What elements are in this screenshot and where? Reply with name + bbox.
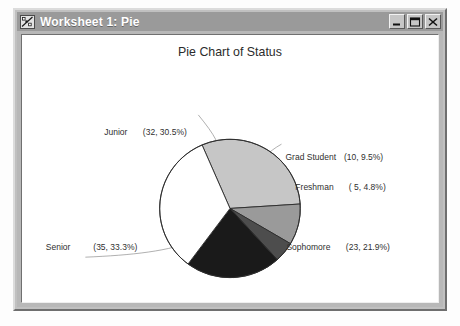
pie-chart-canvas: Pie Chart of Status (22, 35, 438, 302)
worksheet-window: Worksheet 1: Pie (13, 8, 447, 311)
slice-label-junior-value: (32, 30.5%) (143, 127, 187, 137)
slice-label-sophomore-value: (23, 21.9%) (346, 242, 390, 252)
window-buttons (389, 14, 441, 29)
slice-label-senior-name: Senior (46, 242, 71, 252)
slice-label-grad-student-name: Grad Student (285, 152, 336, 162)
slice-label-senior-value: (35, 33.3%) (93, 242, 137, 252)
worksheet-chart-icon (20, 15, 35, 29)
slice-label-freshman-value: ( 5, 4.8%) (349, 182, 386, 192)
title-bar[interactable]: Worksheet 1: Pie (17, 12, 443, 31)
window-title: Worksheet 1: Pie (40, 15, 389, 29)
minimize-button[interactable] (389, 14, 405, 29)
pie-slices (160, 139, 301, 277)
chart-title: Pie Chart of Status (178, 46, 282, 60)
slice-label-sophomore-name: Sophomore (286, 242, 330, 252)
window-inner-frame: Worksheet 1: Pie (17, 12, 443, 307)
client-area: Pie Chart of Status (21, 34, 439, 303)
page-root: Worksheet 1: Pie (0, 0, 460, 326)
slice-label-grad-student-value: (10, 9.5%) (344, 152, 383, 162)
close-button[interactable] (425, 14, 441, 29)
pie-chart: Pie Chart of Status (22, 35, 438, 302)
maximize-button[interactable] (407, 14, 423, 29)
leader-line-junior (198, 115, 216, 140)
slice-label-junior-name: Junior (104, 127, 127, 137)
slice-label-freshman-name: Freshman (295, 182, 334, 192)
